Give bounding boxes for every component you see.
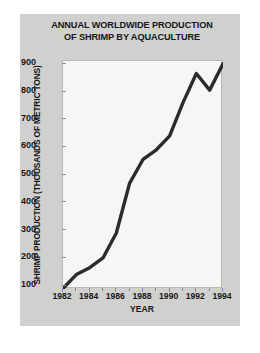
y-axis-tick-900: 900 bbox=[8, 58, 36, 67]
y-axis-tick-600: 600 bbox=[8, 141, 36, 150]
x-tick-mark-1989 bbox=[155, 288, 156, 291]
x-tick-mark-1990 bbox=[169, 288, 170, 292]
chart-figure: ANNUAL WORLDWIDE PRODUCTION OF SHRIMP BY… bbox=[0, 0, 260, 353]
y-tick-mark-400 bbox=[62, 201, 66, 202]
y-tick-mark-900 bbox=[62, 63, 66, 64]
x-tick-mark-1993 bbox=[209, 288, 210, 291]
y-tick-mark-700 bbox=[62, 118, 66, 119]
chart-title-line-1: ANNUAL WORLDWIDE PRODUCTION bbox=[34, 20, 230, 32]
y-axis-tick-200: 200 bbox=[8, 252, 36, 261]
y-axis-tick-800: 800 bbox=[8, 86, 36, 95]
y-axis-tick-300: 300 bbox=[8, 225, 36, 234]
data-line-series bbox=[63, 61, 223, 289]
x-tick-mark-1994 bbox=[222, 288, 223, 292]
x-tick-mark-1991 bbox=[182, 288, 183, 291]
y-tick-mark-800 bbox=[62, 91, 66, 92]
y-axis-tick-700: 700 bbox=[8, 114, 36, 123]
x-tick-mark-1982 bbox=[62, 288, 63, 292]
x-tick-mark-1992 bbox=[195, 288, 196, 292]
x-tick-mark-1988 bbox=[142, 288, 143, 292]
y-tick-mark-600 bbox=[62, 146, 66, 147]
x-tick-mark-1983 bbox=[75, 288, 76, 291]
x-tick-mark-1984 bbox=[89, 288, 90, 292]
chart-title: ANNUAL WORLDWIDE PRODUCTION OF SHRIMP BY… bbox=[34, 20, 230, 43]
y-axis-tick-100: 100 bbox=[8, 280, 36, 289]
y-tick-mark-200 bbox=[62, 257, 66, 258]
x-axis-tick-1994: 1994 bbox=[205, 292, 239, 301]
x-tick-mark-1985 bbox=[102, 288, 103, 291]
y-tick-mark-500 bbox=[62, 174, 66, 175]
x-axis-title: YEAR bbox=[62, 304, 222, 314]
y-tick-mark-300 bbox=[62, 229, 66, 230]
y-tick-mark-100 bbox=[62, 285, 66, 286]
y-axis-tick-500: 500 bbox=[8, 169, 36, 178]
y-axis-tick-400: 400 bbox=[8, 197, 36, 206]
plot-area bbox=[62, 60, 222, 288]
chart-title-line-2: OF SHRIMP BY AQUACULTURE bbox=[34, 32, 230, 44]
x-tick-mark-1987 bbox=[129, 288, 130, 291]
x-tick-mark-1986 bbox=[115, 288, 116, 292]
